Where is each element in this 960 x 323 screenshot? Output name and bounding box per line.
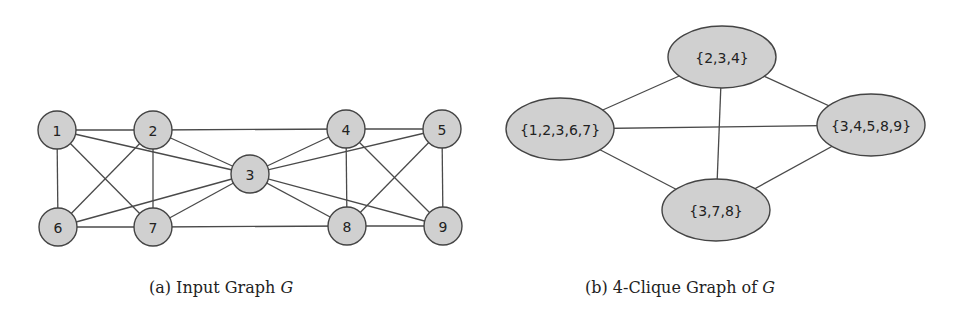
node-label: {2,3,4} — [695, 50, 748, 66]
node-label: 8 — [343, 219, 352, 235]
node-3: 3 — [231, 155, 269, 193]
node-6: 6 — [39, 208, 77, 246]
caption-a-text: (a) Input Graph — [149, 278, 280, 297]
node-c378: {3,7,8} — [662, 179, 770, 241]
node-5: 5 — [423, 110, 461, 148]
node-c34589: {3,4,5,8,9} — [817, 94, 925, 156]
caption-input-graph: (a) Input Graph G — [149, 278, 293, 297]
diagram-canvas: 123456789 {2,3,4}{1,2,3,6,7}{3,4,5,8,9}{… — [0, 0, 960, 323]
node-label: 3 — [246, 167, 255, 183]
node-label: {3,7,8} — [689, 203, 742, 219]
node-8: 8 — [328, 207, 366, 245]
node-c12367: {1,2,3,6,7} — [506, 98, 614, 160]
node-label: 7 — [149, 220, 158, 236]
caption-clique-graph: (b) 4-Clique Graph of G — [585, 278, 775, 297]
edge-7-8 — [153, 226, 347, 227]
node-label: 2 — [149, 123, 158, 139]
node-4: 4 — [327, 110, 365, 148]
caption-b-var: G — [762, 278, 775, 297]
node-label: 6 — [54, 220, 63, 236]
node-label: 5 — [438, 122, 447, 138]
node-label: 9 — [439, 219, 448, 235]
clique-graph-nodes: {2,3,4}{1,2,3,6,7}{3,4,5,8,9}{3,7,8} — [506, 26, 925, 241]
node-label: {3,4,5,8,9} — [831, 118, 911, 134]
node-1: 1 — [38, 111, 76, 149]
node-label: {1,2,3,6,7} — [520, 122, 600, 138]
node-label: 4 — [342, 122, 351, 138]
node-7: 7 — [134, 208, 172, 246]
node-label: 1 — [53, 123, 62, 139]
node-2: 2 — [134, 111, 172, 149]
caption-b-text: (b) 4-Clique Graph of — [585, 278, 762, 297]
edge-2-4 — [153, 129, 346, 130]
node-9: 9 — [424, 207, 462, 245]
caption-a-var: G — [280, 278, 293, 297]
node-c234: {2,3,4} — [668, 26, 776, 88]
